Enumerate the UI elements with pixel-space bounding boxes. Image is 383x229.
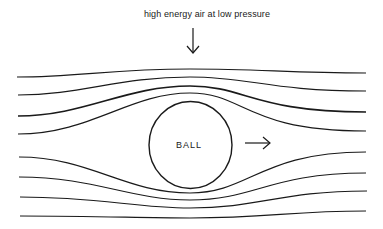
streamline-6 — [19, 173, 366, 200]
right-arrow-icon — [245, 137, 270, 149]
ball-label: BALL — [176, 140, 202, 150]
airflow-diagram — [0, 0, 383, 229]
streamline-8 — [20, 211, 366, 218]
streamline-4 — [18, 93, 366, 134]
down-arrow-icon — [187, 28, 199, 53]
streamline-5 — [19, 152, 366, 193]
streamline-1 — [17, 69, 366, 77]
